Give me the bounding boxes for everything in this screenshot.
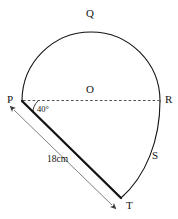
vertex-label-t: T — [126, 200, 133, 211]
vertex-label-p: P — [7, 94, 13, 105]
vertex-label-q: Q — [86, 8, 94, 19]
vertex-label-s: S — [152, 150, 158, 161]
dimension-label-18cm: 18cm — [47, 155, 68, 165]
vertex-label-o: O — [86, 84, 94, 95]
chord-pt — [22, 101, 121, 198]
geometry-figure: P Q O R S T 40° 18cm — [0, 0, 178, 219]
geometry-canvas — [0, 0, 178, 219]
vertex-label-r: R — [165, 94, 172, 105]
angle-label-40deg: 40° — [37, 105, 49, 114]
